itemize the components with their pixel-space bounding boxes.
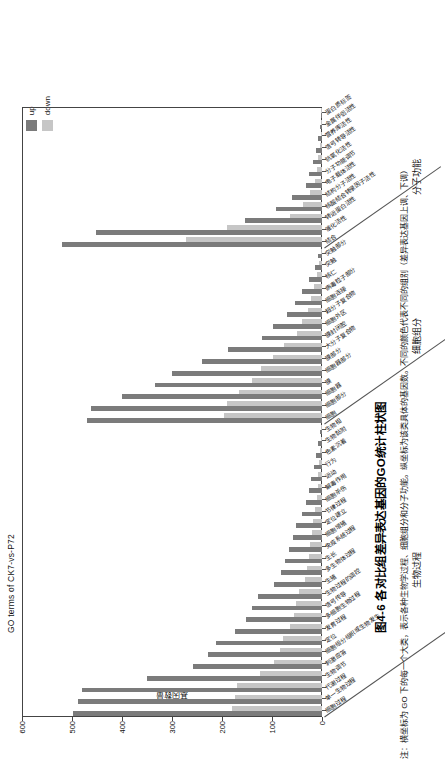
bar-down: [273, 355, 322, 360]
figure-caption-note: 注：横坐标为 GO 下的每一个大类，表示各种生物学过程、细胞组分和分子功能。纵坐…: [400, 14, 411, 759]
bar-group: [22, 601, 322, 610]
bar-up: [318, 136, 322, 141]
bar-group: [22, 507, 322, 516]
bar-up: [296, 523, 322, 528]
bar-up: [276, 207, 322, 212]
bar-group: [22, 155, 322, 164]
bar-down: [261, 366, 322, 371]
bar-group: [22, 308, 322, 317]
bar-up: [228, 348, 322, 353]
bar-up: [172, 371, 322, 376]
bar-group: [22, 624, 322, 633]
bar-group: [22, 284, 322, 293]
y-tick-mark: [172, 717, 173, 721]
bar-group: [22, 671, 322, 680]
bar-up: [309, 277, 322, 282]
bar-group: [22, 132, 322, 141]
y-tick-mark: [72, 717, 73, 721]
y-tick-mark: [272, 717, 273, 721]
bar-up: [293, 535, 322, 540]
bar-down: [308, 308, 322, 313]
bar-up: [320, 125, 323, 130]
bar-group: [22, 613, 322, 622]
bar-up: [245, 218, 323, 223]
bar-down: [310, 542, 322, 547]
bar-up: [246, 617, 322, 622]
bar-up: [202, 359, 322, 364]
bar-group: [22, 660, 322, 669]
bar-down: [296, 601, 322, 606]
bar-up: [73, 711, 322, 716]
bar-group: [22, 296, 322, 305]
bar-group: [22, 695, 322, 704]
bar-up: [320, 430, 323, 435]
bar-group: [22, 448, 322, 457]
bar-group: [22, 683, 322, 692]
bar-group: [22, 378, 322, 387]
bar-up: [78, 699, 323, 704]
y-tick-label: 400: [118, 721, 127, 751]
bar-up: [306, 183, 322, 188]
bar-up: [87, 418, 322, 423]
bar-series-container: [22, 107, 322, 717]
bar-down: [311, 296, 322, 301]
bar-up: [295, 301, 322, 306]
bar-down: [315, 507, 322, 512]
bar-group: [22, 272, 322, 281]
bar-down: [227, 226, 322, 231]
bar-down: [235, 695, 322, 700]
bar-group: [22, 554, 322, 563]
bar-group: [22, 460, 322, 469]
bar-group: [22, 472, 322, 481]
bar-up: [122, 394, 322, 399]
bar-down: [315, 179, 322, 184]
bar-up: [147, 676, 322, 681]
bar-up: [309, 172, 322, 177]
bar-down: [314, 284, 322, 289]
bar-up: [306, 500, 322, 505]
plot-area: 基因数量 0100200300400500600 细胞过程单一生物过程代谢过程生…: [22, 107, 322, 717]
bar-up: [262, 336, 322, 341]
bar-group: [22, 167, 322, 176]
x-category-label: 突触: [324, 256, 337, 268]
bar-down: [307, 566, 322, 571]
bar-group: [22, 143, 322, 152]
bar-group: [22, 566, 322, 575]
bar-group: [22, 648, 322, 657]
bar-down: [284, 343, 322, 348]
bar-up: [155, 383, 323, 388]
bar-up: [289, 547, 322, 552]
bar-down: [186, 237, 322, 242]
bar-down: [290, 624, 322, 629]
bar-group: [22, 261, 322, 270]
bar-group: [22, 425, 322, 434]
group-name-label: 细胞组分: [410, 318, 423, 354]
bar-group: [22, 190, 322, 199]
bar-up: [252, 606, 322, 611]
y-tick-label: 300: [168, 721, 177, 751]
bar-group: [22, 589, 322, 598]
bar-up: [281, 570, 322, 575]
group-name-label: 生物过程: [410, 552, 423, 588]
bar-up: [285, 559, 322, 564]
bar-up: [315, 265, 322, 270]
bar-up: [258, 594, 322, 599]
bar-up: [91, 406, 322, 411]
bar-up: [82, 688, 322, 693]
bar-group: [22, 390, 322, 399]
bar-down: [297, 331, 322, 336]
bar-group: [22, 437, 322, 446]
bar-up: [292, 195, 322, 200]
bar-group: [22, 542, 322, 551]
bar-group: [22, 495, 322, 504]
bar-down: [299, 589, 322, 594]
bar-down: [239, 390, 322, 395]
bar-group: [22, 226, 322, 235]
bar-group: [22, 484, 322, 493]
bar-up: [318, 254, 322, 259]
bar-group: [22, 214, 322, 223]
y-tick-mark: [22, 717, 23, 721]
y-tick-label: 0: [318, 721, 327, 751]
bar-group: [22, 120, 322, 129]
bar-group: [22, 108, 322, 117]
